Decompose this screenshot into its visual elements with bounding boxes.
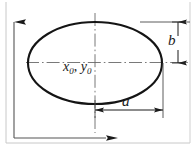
- figure-canvas: [0, 0, 196, 148]
- coordinate-axes: [14, 22, 106, 138]
- center-y-symbol: y: [81, 59, 87, 74]
- ellipse-dimension-figure: x0, y0 b a: [0, 0, 196, 148]
- center-coordinate-label: x0, y0: [63, 60, 91, 74]
- figure-frame: [6, 2, 190, 143]
- centerlines: [26, 13, 188, 133]
- center-comma: ,: [74, 59, 78, 74]
- center-y-subscript: 0: [87, 66, 92, 76]
- center-x-subscript: 0: [69, 66, 74, 76]
- semi-minor-axis-label: b: [168, 33, 176, 48]
- semi-major-axis-label: a: [122, 94, 130, 109]
